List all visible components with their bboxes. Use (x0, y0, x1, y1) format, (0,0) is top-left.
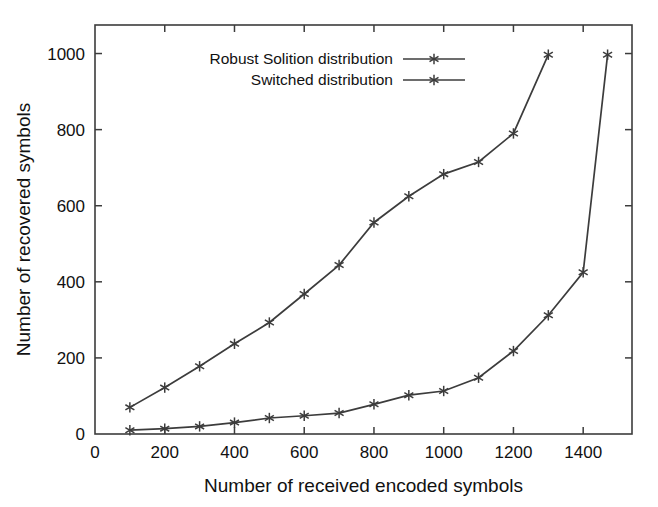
legend-entry-1[interactable]: Robust Solition distribution (209, 50, 465, 67)
x-tick-label-1000: 1000 (425, 443, 463, 462)
x-axis-title: Number of received encoded symbols (204, 475, 523, 496)
x-tick-label-0: 0 (90, 443, 99, 462)
x-tick-label-200: 200 (151, 443, 179, 462)
legend-label-1: Robust Solition distribution (209, 50, 393, 67)
y-tick-label-200: 200 (57, 349, 85, 368)
series-1 (125, 49, 552, 412)
x-tick-label-800: 800 (360, 443, 388, 462)
series-line-2 (130, 55, 608, 431)
y-tick-label-1000: 1000 (47, 45, 85, 64)
x-tick-label-400: 400 (220, 443, 248, 462)
series-line-1 (130, 55, 548, 408)
line-chart: 0200400600800100012001400020040060080010… (0, 0, 658, 507)
y-tick-label-600: 600 (57, 197, 85, 216)
x-tick-label-600: 600 (290, 443, 318, 462)
y-tick-label-0: 0 (76, 425, 85, 444)
x-tick-label-1400: 1400 (564, 443, 602, 462)
x-tick-label-1200: 1200 (495, 443, 533, 462)
y-tick-label-800: 800 (57, 121, 85, 140)
legend-label-2: Switched distribution (251, 71, 393, 88)
legend-entry-2[interactable]: Switched distribution (251, 71, 465, 88)
series-2 (125, 49, 612, 435)
figure-container: 0200400600800100012001400020040060080010… (0, 0, 658, 507)
y-tick-label-400: 400 (57, 273, 85, 292)
y-axis-title: Number of recovered symbols (13, 103, 34, 356)
